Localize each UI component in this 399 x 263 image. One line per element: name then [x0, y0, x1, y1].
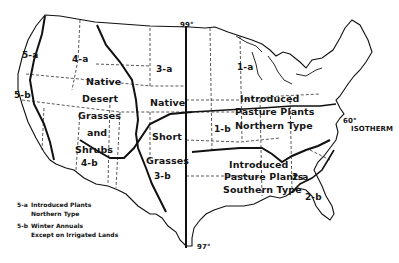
legend-5a-line2: Northern Type — [31, 210, 79, 217]
north-zone-label-line3: Northern Type — [235, 120, 313, 131]
legend-5a-line1: Introduced Plants — [31, 201, 91, 208]
south-zone-label-line2: Pasture Plants — [224, 171, 304, 182]
region-1a-label: 1-a — [237, 62, 253, 73]
west-zone-label-line4: and — [87, 127, 107, 138]
us-pasture-zones-map: 99° 97° 60° ISOTHERM 1-a 1-b 2-a 2-b 3-a… — [0, 0, 399, 263]
legend-5b-code: 5-b — [17, 222, 28, 229]
legend-5b-line1: Winter Annuals — [31, 222, 83, 229]
meridian-99-label: 99° — [180, 21, 194, 29]
west-zone-label-line1: Native — [86, 76, 121, 87]
zone-boundary-pacific — [30, 16, 54, 160]
plains-grasses-label: Grasses — [146, 155, 189, 166]
plains-short-label: Short — [152, 131, 182, 142]
south-zone-label-line3: Southern Type — [223, 184, 302, 195]
meridian-97-label: 97° — [197, 243, 211, 251]
great-lakes-outline — [236, 36, 322, 84]
west-zone-label-line5: Shrubs — [75, 144, 113, 155]
west-zone-label-line2: Desert — [82, 93, 118, 104]
plains-native-label: Native — [150, 97, 185, 108]
region-5b-label: 5-b — [14, 90, 31, 101]
region-4b-label: 4-b — [81, 158, 98, 169]
region-3a-label: 3-a — [156, 64, 172, 75]
west-zone-label-line3: Grasses — [78, 110, 121, 121]
legend-5a-code: 5-a — [17, 201, 28, 208]
region-3b-label: 3-b — [154, 171, 171, 182]
legend-5b-line2: Except on Irrigated Lands — [31, 231, 118, 238]
isotherm-degree-label: 60° — [343, 117, 357, 125]
region-2b-label: 2-b — [305, 192, 322, 203]
north-zone-label-line2: Pasture Plants — [235, 106, 315, 117]
south-zone-label-line1: Introduced — [229, 159, 289, 170]
isotherm-label: ISOTHERM — [351, 125, 393, 133]
region-4a-label: 4-a — [72, 54, 88, 65]
region-5a-label: 5-a — [22, 50, 38, 61]
region-1b-label: 1-b — [214, 124, 231, 135]
north-zone-label-line1: Introduced — [240, 93, 300, 104]
